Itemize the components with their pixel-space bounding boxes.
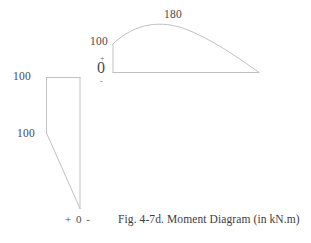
right-start-value-label: 100: [90, 36, 108, 48]
moment-diagram-figure: 100 100 100 180 + 0 - + 0 - Fig. 4-7d. M…: [0, 0, 311, 243]
right-parabolic-curve: [113, 24, 259, 72]
left-top-value-label: 100: [13, 71, 31, 83]
moment-diagram-drawing: [0, 0, 311, 243]
left-mid-value-label: 100: [17, 128, 35, 140]
sign-row-label: + 0 -: [65, 214, 91, 225]
figure-caption: Fig. 4-7d. Moment Diagram (in kN.m): [118, 214, 300, 226]
minus-sign-marker: -: [100, 78, 103, 86]
left-moment-shape: [47, 78, 81, 209]
zero-baseline-marker: 0: [97, 60, 105, 76]
right-peak-value-label: 180: [164, 9, 182, 21]
left-diagonal-line: [47, 133, 81, 209]
right-moment-shape: [113, 24, 259, 72]
